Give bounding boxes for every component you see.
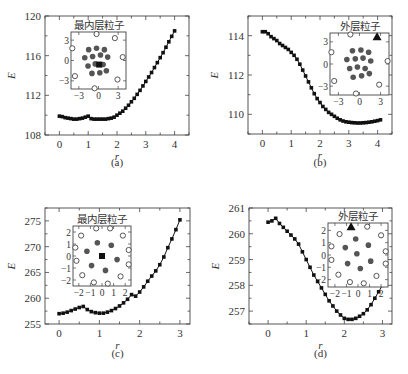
inner-particle [366,49,372,55]
data-point-marker [295,57,299,61]
x-tick-label: 4 [172,138,178,150]
data-point-marker [274,217,278,221]
outer-particle [72,74,77,79]
inset-y-tick-label: −1 [316,263,326,273]
data-point-marker [312,92,316,96]
data-point-marker [130,293,134,297]
y-tick-label: 260 [229,228,246,240]
outer-particle [79,233,84,238]
inner-particle [360,55,366,61]
data-point-marker [130,100,134,104]
y-tick-label: 120 [25,10,42,22]
x-tick-label: 0 [260,137,266,149]
data-point-marker [161,51,165,55]
x-tick-label: 2 [114,138,120,150]
data-point-marker [146,279,150,283]
inset-title: 外层粒子 [340,20,380,32]
data-point-marker [61,311,65,315]
x-tick-label: 2 [137,327,143,339]
inner-particle [95,240,101,246]
outer-particle [378,233,383,238]
panel-label: (b) [314,156,327,169]
inset-title: 最内层粒子 [74,19,124,31]
x-tick-label: 3 [143,138,149,150]
outer-particle [120,55,125,60]
inner-particle [368,58,374,64]
data-point-marker [320,286,324,290]
data-point-marker [297,242,301,246]
inset-x-tick-label: 1 [111,288,116,298]
inner-particle [344,57,350,63]
inset-x-tick-label: 0 [356,289,361,299]
panel-c: 0123255260265270275rE(c)最内层粒子−2−2−1−1001… [5,208,190,360]
inset-particle-configuration: 外层粒子−2−2−1−1001122 [316,210,388,299]
selected-particle-square [99,253,105,259]
data-point-marker [77,306,81,310]
inset-particle-configuration: 最内层粒子−3−30033 [59,19,126,101]
inset-x-tick-label: 2 [123,288,128,298]
data-point-marker [170,35,174,39]
data-point-marker [158,263,162,267]
inner-particle [350,48,356,54]
data-point-marker [354,317,358,321]
data-point-marker [69,309,73,313]
x-tick-label: 4 [375,137,381,149]
data-point-marker [266,220,270,224]
panel-label: (c) [111,347,124,360]
data-point-marker [301,68,305,72]
data-point-marker [170,237,174,241]
data-point-marker [114,307,118,311]
data-point-marker [298,62,302,66]
inner-particle [84,248,90,254]
data-point-marker [339,313,343,317]
data-point-marker [142,285,146,289]
outer-particle [353,91,358,96]
outer-particle [74,258,79,263]
data-point-marker [362,312,366,316]
data-point-marker [282,226,286,230]
data-point-marker [150,71,154,75]
y-tick-label: 275 [25,215,42,227]
inner-particle [367,71,373,77]
x-tick-label: 0 [265,327,271,339]
outer-particle [108,226,113,231]
data-point-marker [278,222,282,226]
data-point-marker [57,312,61,316]
inset-y-tick-label: −2 [316,275,326,285]
panel-a: 01234108112116120rE(a)最内层粒子−3−30033 [5,10,189,169]
x-tick-label: 1 [97,327,103,339]
data-point-marker [162,255,166,259]
data-point-marker [350,318,354,322]
inset-x-tick-label: −2 [74,288,84,298]
inset-x-tick-label: −3 [333,97,343,107]
x-tick-label: 2 [342,327,348,339]
inset-y-tick-label: 2 [66,228,71,238]
outer-particle [115,77,120,82]
inset-y-tick-label: 0 [66,252,71,262]
data-point-marker [307,80,311,84]
outer-particle [94,226,99,231]
outer-particle [105,281,110,286]
inset-y-tick-label: 1 [66,240,71,250]
outer-particle [126,247,131,252]
inset-x-tick-label: 0 [357,97,362,107]
outer-particle [383,261,388,266]
data-point-marker [138,290,142,294]
data-point-marker [369,303,373,307]
data-point-marker [167,40,171,44]
x-tick-label: 1 [85,138,91,150]
y-tick-label: 265 [25,266,42,278]
inset-y-tick-label: 0 [321,251,326,261]
data-point-marker [323,293,327,297]
inset-title: 外层粒子 [338,210,378,222]
x-tick-label: 0 [56,327,62,339]
outer-particle [383,249,388,254]
inner-particle [350,74,356,80]
data-point-marker [173,29,177,33]
data-point-marker [98,311,102,315]
outer-particle [120,233,125,238]
inset-x-tick-label: 2 [379,289,384,299]
data-point-marker [335,309,339,313]
y-axis-label: E [208,71,220,79]
data-point-marker [293,237,297,241]
